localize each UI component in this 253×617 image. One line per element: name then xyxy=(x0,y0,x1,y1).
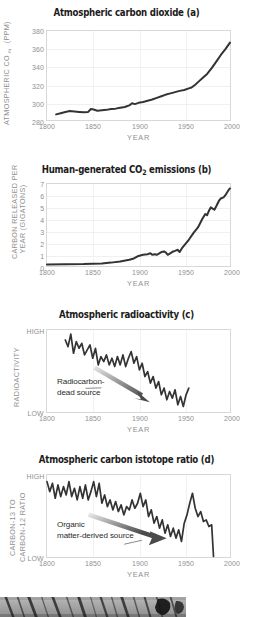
chart-d-plot-area: HIGH LOW 1800 1850 1900 1950 2000 YEAR xyxy=(46,474,231,558)
chart-c-xtick: 1900 xyxy=(132,414,148,423)
chart-c-title: Atmospheric radioactivity (c) xyxy=(9,308,244,320)
tree-ring-photo-image xyxy=(0,597,186,617)
chart-c-xtick: 1850 xyxy=(85,414,101,423)
chart-panel-c: Atmospheric radioactivity (c) RADIOACTIV… xyxy=(0,305,253,450)
chart-d-xtick: 1850 xyxy=(85,559,101,568)
chart-a-title-text: Atmospheric carbon dioxide xyxy=(54,6,184,18)
chart-b-ytick: 2 xyxy=(40,240,44,249)
chart-a-xlabel: YEAR xyxy=(47,133,230,142)
chart-d-xtick: 1950 xyxy=(178,559,194,568)
chart-a-xtick: 2000 xyxy=(224,122,240,131)
chart-d-xlabel: YEAR xyxy=(47,570,230,579)
chart-a-panel-letter: (a) xyxy=(186,6,199,18)
chart-c-xtick: 1950 xyxy=(178,414,194,423)
figure-container: Atmospheric carbon dioxide (a) ATMOSPHER… xyxy=(0,0,253,617)
chart-a-xtick: 1950 xyxy=(178,122,194,131)
chart-b-ytick: 1 xyxy=(40,252,44,261)
chart-c-annotation: Radiocarbon- dead source xyxy=(57,377,104,398)
chart-d-annotation-line2: matter-derived source xyxy=(57,531,134,542)
chart-a-title: Atmospheric carbon dioxide (a) xyxy=(9,6,244,18)
chart-d-annotation: Organic matter-derived source xyxy=(57,520,134,541)
chart-a-ytick: 300 xyxy=(32,99,44,108)
chart-d-xtick: 1900 xyxy=(132,559,148,568)
chart-b-ytick: 6 xyxy=(40,192,44,201)
chart-b-ytick: 5 xyxy=(40,204,44,213)
chart-b-ytick: 4 xyxy=(40,216,44,225)
chart-a-xtick: 1900 xyxy=(132,122,148,131)
chart-d-ylabel-line2: CARBON-12 RATIO xyxy=(18,488,28,566)
chart-c-xtick: 2000 xyxy=(224,414,240,423)
chart-c-annotation-line1: Radiocarbon- xyxy=(57,377,104,388)
chart-b-title-text2: emissions (b) xyxy=(146,163,211,175)
chart-a-ytick: 360 xyxy=(32,45,44,54)
tree-ring-photo xyxy=(0,597,186,617)
chart-panel-b: Human-generated CO2 emissions (b) CARBON… xyxy=(0,160,253,305)
chart-d-ytick-high: HIGH xyxy=(26,472,44,481)
chart-b-title-subscript: 2 xyxy=(142,168,146,177)
chart-b-series-line xyxy=(47,184,230,267)
chart-a-series-line xyxy=(47,31,230,121)
chart-a-xtick: 1800 xyxy=(39,122,55,131)
chart-d-annotation-line1: Organic xyxy=(57,520,134,531)
chart-d-title: Atmospheric carbon istotope ratio (d) xyxy=(9,453,244,465)
chart-d-xtick: 1800 xyxy=(39,559,55,568)
chart-b-title: Human-generated CO2 emissions (b) xyxy=(9,163,244,175)
chart-a-ytick: 320 xyxy=(32,81,44,90)
chart-b-xlabel: YEAR xyxy=(47,279,230,288)
chart-c-xtick: 1800 xyxy=(39,414,55,423)
chart-b-xtick: 1950 xyxy=(178,268,194,277)
chart-b-ytick: 3 xyxy=(40,228,44,237)
chart-c-ylabel: RADIOACTIVITY xyxy=(12,337,22,417)
chart-a-ytick: 340 xyxy=(32,63,44,72)
chart-a-ytick: 380 xyxy=(32,27,44,36)
chart-a-ylabel: ATMOSPHERIC CO2 (PPM) xyxy=(2,30,12,125)
chart-c-annotation-arrow xyxy=(47,330,230,413)
chart-panel-a: Atmospheric carbon dioxide (a) ATMOSPHER… xyxy=(0,0,253,160)
chart-c-annotation-line2: dead source xyxy=(57,388,104,399)
chart-b-ylabel-line2: YEAR (GIGATONS) xyxy=(18,179,28,259)
chart-d-annotation-arrow xyxy=(47,475,230,558)
chart-b-title-text: Human-generated CO xyxy=(42,163,142,175)
chart-b-xtick: 2000 xyxy=(224,268,240,277)
chart-d-xtick: 2000 xyxy=(224,559,240,568)
chart-a-xtick: 1850 xyxy=(85,122,101,131)
chart-b-ytick: 7 xyxy=(40,180,44,189)
chart-b-xtick: 1800 xyxy=(39,268,55,277)
chart-b-xtick: 1850 xyxy=(85,268,101,277)
chart-b-plot-area: 7 6 5 4 3 2 1 0 1800 1850 1900 1950 2000… xyxy=(46,183,231,267)
chart-panel-d: Atmospheric carbon istotope ratio (d) CA… xyxy=(0,450,253,597)
chart-a-plot-area: 380 360 340 320 300 280 1800 1850 1900 1… xyxy=(46,30,231,121)
chart-c-ytick-high: HIGH xyxy=(26,327,44,336)
chart-c-plot-area: HIGH LOW 1800 1850 1900 1950 2000 YEAR xyxy=(46,329,231,413)
chart-c-xlabel: YEAR xyxy=(47,425,230,434)
chart-b-xtick: 1900 xyxy=(132,268,148,277)
chart-d-ylabel-line1: CARBON-13 TO xyxy=(8,488,18,566)
